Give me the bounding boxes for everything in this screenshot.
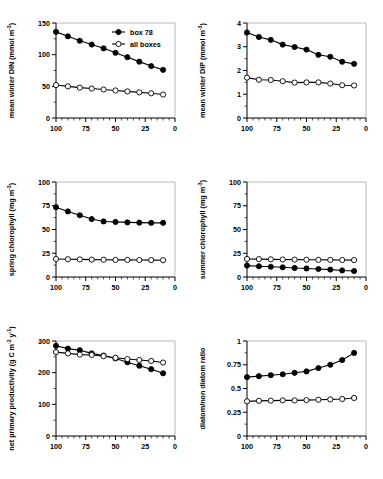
y-tick-label: 3: [237, 42, 241, 51]
series-line-open: [247, 398, 354, 401]
data-point-filled: [77, 213, 82, 218]
data-point-filled: [292, 44, 297, 49]
data-point-open: [304, 257, 309, 262]
chart-panel-bottom-right: 00.250.50.7511007550250diatom/non diatom…: [191, 319, 382, 478]
x-tick-label: 100: [50, 442, 62, 451]
data-point-filled: [125, 55, 130, 60]
plot-frame: [247, 341, 366, 436]
y-tick-label: 100: [229, 178, 241, 187]
data-point-open: [125, 257, 130, 262]
data-point-filled: [268, 264, 273, 269]
data-point-open: [161, 92, 166, 97]
data-point-open: [268, 77, 273, 82]
data-point-filled: [256, 374, 261, 379]
x-tick-label: 50: [303, 124, 311, 133]
chart-panel-bottom-left: 01002003001007550250net primary producti…: [0, 319, 191, 478]
y-tick-label: 0: [237, 114, 241, 123]
data-point-filled: [340, 59, 345, 64]
data-point-filled: [65, 209, 70, 214]
x-tick-label: 100: [241, 442, 253, 451]
figure-panel-grid: 0501001501007550250mean winter DIN (mmol…: [0, 0, 383, 479]
data-point-filled: [292, 370, 297, 375]
data-point-filled: [328, 267, 333, 272]
series-line-open: [56, 352, 163, 362]
data-point-filled: [328, 362, 333, 367]
x-tick-label: 50: [303, 283, 311, 292]
y-axis-title: summer chlorophyll (mg m-3): [197, 179, 207, 279]
y-tick-label: 0.5: [231, 384, 241, 393]
y-tick-label: 300: [38, 337, 50, 346]
x-tick-label: 50: [303, 442, 311, 451]
data-point-filled: [244, 263, 249, 268]
y-axis-title: net primary productivity (g C m-2 y-1): [6, 326, 16, 451]
x-tick-label: 25: [332, 442, 340, 451]
x-tick-label: 75: [82, 442, 90, 451]
chart-panel-top-right: 012341007550250mean winter DIP (mmol m-3…: [191, 1, 382, 160]
data-point-filled: [53, 205, 58, 210]
data-point-open: [89, 86, 94, 91]
x-tick-label: 25: [141, 442, 149, 451]
data-point-filled: [304, 47, 309, 52]
y-axis-title: mean winter DIP (mmol m-3): [197, 23, 207, 118]
x-tick-label: 50: [112, 283, 120, 292]
data-point-open: [137, 90, 142, 95]
data-point-open: [53, 256, 58, 261]
data-point-open: [89, 352, 94, 357]
data-point-open: [352, 257, 357, 262]
data-point-filled: [244, 30, 249, 35]
data-point-filled: [53, 343, 58, 348]
y-tick-label: 50: [42, 225, 50, 234]
data-point-filled: [256, 264, 261, 269]
series-line-open: [247, 78, 354, 86]
x-tick-label: 25: [141, 283, 149, 292]
data-point-open: [149, 358, 154, 363]
series-line-filled: [56, 207, 163, 223]
data-point-filled: [53, 29, 58, 34]
data-point-filled: [316, 52, 321, 57]
data-point-open: [113, 355, 118, 360]
data-point-open: [125, 356, 130, 361]
chart-panel-middle-left: 02550751001007550250spring chlorophyll (…: [0, 160, 191, 319]
data-point-filled: [161, 220, 166, 225]
data-point-open: [137, 257, 142, 262]
data-point-open: [161, 360, 166, 365]
data-point-open: [256, 398, 261, 403]
y-tick-label: 200: [38, 368, 50, 377]
data-point-filled: [149, 367, 154, 372]
data-point-filled: [268, 37, 273, 42]
legend-marker-open: [116, 41, 121, 46]
data-point-open: [161, 258, 166, 263]
data-point-filled: [304, 369, 309, 374]
y-tick-label: 50: [233, 225, 241, 234]
data-point-open: [65, 351, 70, 356]
x-tick-label: 100: [241, 283, 253, 292]
data-point-open: [244, 256, 249, 261]
y-tick-label: 2: [237, 66, 241, 75]
data-point-open: [280, 398, 285, 403]
y-tick-label: 1: [237, 337, 241, 346]
data-point-open: [316, 257, 321, 262]
data-point-open: [340, 257, 345, 262]
data-point-filled: [137, 363, 142, 368]
data-point-filled: [340, 357, 345, 362]
data-point-open: [292, 257, 297, 262]
legend-label-allboxes: all boxes: [130, 40, 161, 49]
data-point-filled: [161, 371, 166, 376]
data-point-open: [113, 88, 118, 93]
data-point-open: [304, 397, 309, 402]
x-tick-label: 0: [173, 283, 177, 292]
data-point-open: [101, 354, 106, 359]
data-point-filled: [340, 268, 345, 273]
data-point-filled: [280, 372, 285, 377]
series-line-filled: [247, 33, 354, 64]
data-point-filled: [292, 265, 297, 270]
data-point-open: [328, 397, 333, 402]
y-tick-label: 100: [38, 178, 50, 187]
series-line-open: [247, 259, 354, 260]
y-tick-label: 0: [237, 432, 241, 441]
x-tick-label: 50: [112, 442, 120, 451]
y-tick-label: 0: [46, 432, 50, 441]
data-point-open: [244, 399, 249, 404]
x-tick-label: 0: [364, 283, 368, 292]
x-tick-label: 25: [141, 124, 149, 133]
